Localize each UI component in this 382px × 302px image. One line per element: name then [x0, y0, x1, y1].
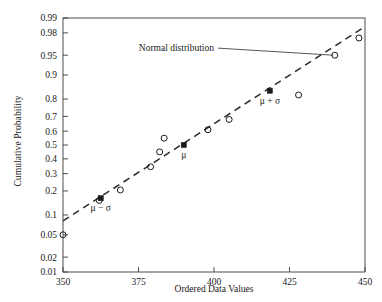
annotation-normal-distribution: Normal distribution: [139, 43, 333, 55]
y-tick-label: 0.8: [45, 94, 57, 104]
y-tick-label: 0.9: [45, 70, 57, 80]
data-point-circle: [226, 116, 232, 122]
x-tick-label: 400: [207, 277, 222, 287]
parameter-marker-label: μ: [181, 150, 186, 160]
parameter-marker-square: [181, 142, 186, 147]
y-tick-label: 0.05: [40, 230, 57, 240]
data-point-circle: [157, 149, 163, 155]
y-tick-label: 0.2: [45, 186, 57, 196]
data-point-circle: [356, 35, 362, 41]
plot-canvas: 0.010.020.050.10.20.30.40.50.60.70.80.90…: [0, 0, 382, 302]
x-tick-label: 350: [56, 277, 71, 287]
y-tick-label: 0.1: [45, 210, 57, 220]
parameter-marker-labels: μ − σμμ + σ: [91, 96, 280, 213]
data-point-circle: [296, 92, 302, 98]
y-tick-label: 0.6: [45, 127, 57, 137]
y-tick-label: 0.99: [40, 13, 57, 23]
parameter-marker-label: μ − σ: [91, 203, 111, 213]
y-tick-label: 0.02: [40, 253, 57, 263]
annotation-leader-line: [218, 48, 333, 55]
y-tick-label: 0.01: [40, 267, 57, 277]
y-tick-label: 0.4: [45, 154, 57, 164]
y-tick-label: 0.3: [45, 169, 57, 179]
parameter-marker-label: μ + σ: [260, 96, 280, 106]
x-tick-label: 425: [282, 277, 297, 287]
y-tick-label: 0.95: [40, 51, 57, 61]
annotation-label: Normal distribution: [139, 43, 214, 53]
data-point-circle: [117, 187, 123, 193]
parameter-markers-filled-squares: [98, 88, 272, 201]
data-point-circle: [161, 135, 167, 141]
y-tick-label: 0.98: [40, 28, 57, 38]
parameter-marker-square: [98, 196, 103, 201]
parameter-marker-square: [267, 88, 272, 93]
reference-line-dashed: [63, 27, 365, 221]
normal-probability-plot-figure: Cumulative Probability Ordered Data Valu…: [0, 0, 382, 302]
normal-distribution-reference-line: [63, 27, 365, 221]
x-axis-ticks: 350375400425450: [56, 267, 373, 287]
y-tick-label: 0.7: [45, 112, 57, 122]
x-tick-label: 450: [358, 277, 373, 287]
x-tick-label: 375: [131, 277, 146, 287]
y-tick-label: 0.5: [45, 140, 57, 150]
